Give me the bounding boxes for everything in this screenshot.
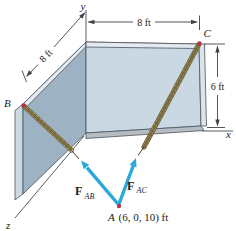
dim-left-line-upper bbox=[54, 14, 84, 48]
force-ac-symbol: F bbox=[127, 179, 134, 193]
dim-right-arrow-down bbox=[215, 120, 219, 127]
diagram-canvas: y x z 8 ft 8 ft 6 ft B C F AB F AC A (6,… bbox=[0, 0, 236, 231]
dim-right-arrow-up bbox=[215, 46, 219, 53]
front-wall-top-band bbox=[86, 42, 199, 49]
point-b-marker bbox=[21, 103, 25, 107]
z-axis-label: z bbox=[5, 219, 11, 231]
dim-top-arrow-left bbox=[88, 20, 95, 24]
force-ac-arrowhead bbox=[130, 158, 137, 167]
cable-b-thin-lead bbox=[72, 151, 79, 159]
force-ab-subscript: AB bbox=[84, 192, 95, 201]
x-axis-label: x bbox=[225, 128, 231, 140]
dim-top-arrow-right bbox=[191, 20, 198, 24]
side-wall-edge-strip bbox=[15, 104, 23, 200]
point-c-marker bbox=[197, 41, 201, 45]
statics-figure: y x z 8 ft 8 ft 6 ft B C F AB F AC A (6,… bbox=[0, 0, 236, 231]
point-a-label: A bbox=[107, 211, 115, 223]
force-ab-symbol: F bbox=[75, 184, 82, 198]
y-axis-label: y bbox=[80, 0, 86, 12]
point-c-label: C bbox=[204, 27, 212, 39]
dim-left-depth-label: 8 ft bbox=[37, 47, 55, 65]
point-b-label: B bbox=[4, 97, 11, 109]
force-ac-subscript: AC bbox=[136, 186, 148, 195]
point-a-coordinates: (6, 0, 10) ft bbox=[119, 211, 169, 224]
point-a-marker bbox=[117, 204, 121, 208]
dim-top-width-label: 8 ft bbox=[137, 17, 151, 28]
cable-c-thin-lead bbox=[138, 147, 144, 156]
front-wall bbox=[86, 42, 201, 133]
dim-left-extension-tick bbox=[22, 71, 27, 83]
dim-right-height-label: 6 ft bbox=[211, 81, 225, 92]
